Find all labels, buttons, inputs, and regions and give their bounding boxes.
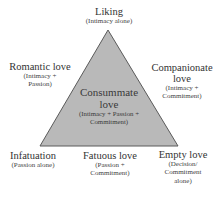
liking-label: Liking (Intimacy alone) [70,6,148,25]
companionate-love-subtitle-1: (Intimacy + [146,84,218,92]
romantic-love-subtitle-2: Passion) [2,80,78,88]
empty-love-subtitle-2: Commitment [150,168,216,176]
liking-subtitle: (Intimacy alone) [70,17,148,25]
empty-love-subtitle-1: (Decision/ [150,160,216,168]
fatuous-love-title: Fatuous love [72,150,148,161]
infatuation-subtitle: (Passion alone) [0,161,66,169]
consummate-love-title-2: love [68,99,150,111]
fatuous-love-subtitle-1: (Passion + [72,161,148,169]
consummate-love-subtitle-1: (Intimacy + Passion + [68,110,150,118]
empty-love-subtitle-3: alone) [150,177,216,185]
consummate-love-label: Consummate love (Intimacy + Passion + Co… [68,87,150,126]
companionate-love-title-2: love [146,73,218,84]
empty-love-label: Empty love (Decision/ Commitment alone) [150,149,216,185]
liking-title: Liking [70,6,148,17]
fatuous-love-subtitle-2: Commitment) [72,169,148,177]
romantic-love-subtitle-1: (Intimacy + [2,72,78,80]
companionate-love-label: Companionate love (Intimacy + Commitment… [146,62,218,101]
romantic-love-label: Romantic love (Intimacy + Passion) [2,61,78,89]
infatuation-title: Infatuation [0,150,66,161]
empty-love-title: Empty love [150,149,216,160]
infatuation-label: Infatuation (Passion alone) [0,150,66,169]
fatuous-love-label: Fatuous love (Passion + Commitment) [72,150,148,178]
consummate-love-title-1: Consummate [68,87,150,99]
consummate-love-subtitle-2: Commitment) [68,118,150,126]
companionate-love-title-1: Companionate [146,62,218,73]
romantic-love-title: Romantic love [2,61,78,72]
companionate-love-subtitle-2: Commitment) [146,92,218,100]
